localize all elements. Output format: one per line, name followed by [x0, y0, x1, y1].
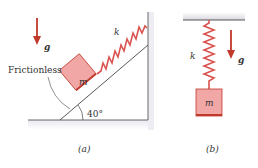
diagram-canvas: 40° k m Frictionless g (a) k m g (b): [0, 0, 258, 168]
ceiling-shade: [183, 12, 245, 20]
gravity-label-a: g: [44, 42, 50, 52]
mass-label-b: m: [205, 98, 214, 108]
gravity-arrowhead-b: [227, 50, 235, 59]
wall-shade: [148, 12, 154, 130]
spring-label-b: k: [190, 51, 195, 61]
gravity-arrowhead-a: [33, 36, 41, 45]
mass-a: [59, 54, 96, 91]
frictionless-label: Frictionless: [8, 65, 62, 75]
spring-label-a: k: [114, 27, 119, 37]
caption-b: (b): [206, 144, 219, 154]
caption-a: (a): [78, 144, 91, 154]
figure-b: k m g (b): [183, 12, 245, 154]
angle-label: 40°: [87, 109, 103, 119]
frictionless-leader: [48, 77, 70, 109]
mass-label-a: m: [79, 77, 88, 87]
gravity-label-b: g: [238, 55, 244, 65]
spring-b: [204, 20, 214, 89]
angle-arc: [78, 105, 83, 120]
ground-shade: [28, 120, 148, 130]
figure-a: 40° k m Frictionless g (a): [8, 12, 154, 154]
